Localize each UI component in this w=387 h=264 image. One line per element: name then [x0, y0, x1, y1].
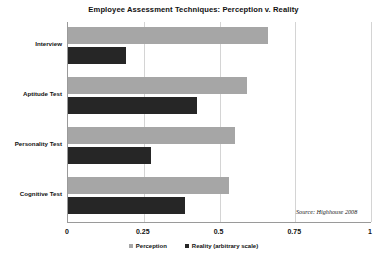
legend-swatch-icon: [129, 244, 133, 248]
x-tick-label: 0.25: [123, 228, 163, 235]
legend-entry: Perception: [129, 243, 167, 249]
category-label: Aptitude Test: [0, 90, 62, 97]
bar-reality: [68, 197, 185, 214]
bar-reality: [68, 97, 197, 114]
bar-reality: [68, 47, 126, 64]
bar-perception: [68, 77, 247, 94]
chart-legend: PerceptionReality (arbitrary scale): [0, 243, 387, 249]
x-tick-label: 0: [47, 228, 87, 235]
chart-container: Employee Assessment Techniques: Percepti…: [0, 0, 387, 264]
bar-perception: [68, 27, 268, 44]
bar-reality: [68, 147, 151, 164]
bar-perception: [68, 127, 235, 144]
x-tick-label: 1: [350, 228, 387, 235]
gridline: [371, 22, 372, 222]
x-tick-label: 0.5: [199, 228, 239, 235]
legend-swatch-icon: [185, 244, 189, 248]
category-label: Interview: [0, 40, 62, 47]
category-label: Cognitive Test: [0, 190, 62, 197]
bar-group: [68, 22, 371, 72]
bar-perception: [68, 177, 229, 194]
legend-label: Reality (arbitrary scale): [192, 243, 258, 249]
x-tick-label: 0.75: [274, 228, 314, 235]
category-label: Personality Test: [0, 140, 62, 147]
source-note: Source: Highhouse 2008: [296, 208, 357, 215]
plot-area: [67, 22, 371, 223]
bar-group: [68, 72, 371, 122]
chart-title: Employee Assessment Techniques: Percepti…: [0, 5, 387, 14]
legend-label: Perception: [136, 243, 167, 249]
legend-entry: Reality (arbitrary scale): [185, 243, 258, 249]
bar-group: [68, 122, 371, 172]
